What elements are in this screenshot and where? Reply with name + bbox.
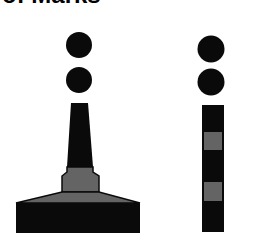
topmark-sphere-upper [198,36,225,63]
topmark-sphere-lower [198,69,225,96]
spar-body [202,105,224,232]
spar-gray-band-upper [204,132,222,150]
spar-mark [198,36,225,233]
pillar-middle-gray-band [62,167,99,192]
topmark-sphere-lower [66,67,92,93]
pillar-mark [16,32,140,233]
marks-illustration [0,0,263,244]
pillar-base-gray-flare [16,192,140,203]
pillar-upper-black-band [67,103,93,167]
pillar-base-black-band [16,203,140,233]
spar-gray-band-lower [204,182,222,201]
diagram-canvas: of Marks [0,0,263,244]
topmark-sphere-upper [66,32,92,58]
